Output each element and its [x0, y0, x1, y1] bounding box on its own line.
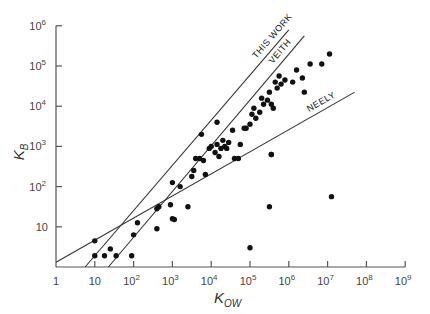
y-tick-label: 106	[29, 18, 46, 32]
data-point	[238, 142, 243, 147]
data-point	[251, 106, 256, 111]
data-point	[170, 180, 175, 185]
data-point	[216, 154, 221, 159]
data-point	[102, 253, 107, 258]
y-tick-label: 103	[29, 138, 46, 152]
data-point	[92, 253, 97, 258]
y-tick-label: 102	[29, 179, 46, 193]
data-point	[113, 253, 118, 258]
data-point	[129, 253, 134, 258]
data-point	[307, 61, 312, 66]
y-tick-label: 10	[36, 221, 48, 233]
data-point	[199, 132, 204, 137]
data-point	[224, 146, 229, 151]
fit-line-veith	[108, 36, 304, 267]
x-tick-label: 1	[53, 275, 59, 287]
x-tick-label: 108	[356, 273, 373, 287]
data-point	[168, 202, 173, 207]
x-tick-label: 106	[278, 273, 295, 287]
data-point	[290, 79, 295, 84]
data-point	[278, 81, 283, 86]
y-tick-label: 105	[29, 58, 46, 72]
fit-line-this-work	[85, 30, 289, 267]
y-axis-title: KB	[10, 143, 30, 160]
data-point	[131, 232, 136, 237]
data-point	[273, 79, 278, 84]
data-point	[189, 174, 194, 179]
data-point	[271, 106, 276, 111]
data-point	[247, 122, 252, 127]
data-point	[253, 116, 258, 121]
x-tick-label: 102	[123, 273, 140, 287]
tick-labels: 1101021031041051061071081091010210310410…	[29, 18, 412, 287]
data-point	[209, 144, 214, 149]
data-point	[327, 51, 332, 56]
data-point	[329, 194, 334, 199]
data-point	[212, 150, 217, 155]
data-point	[230, 128, 235, 133]
data-points	[92, 51, 334, 258]
line-label-neely: NEELY	[305, 89, 337, 113]
data-point	[294, 67, 299, 72]
y-tick-label: 104	[29, 98, 46, 112]
data-point	[302, 89, 307, 94]
axes	[56, 26, 405, 267]
data-point	[249, 112, 254, 117]
data-point	[267, 89, 272, 94]
data-point	[108, 246, 113, 251]
data-point	[154, 226, 159, 231]
data-point	[185, 204, 190, 209]
data-point	[191, 168, 196, 173]
x-tick-label: 107	[317, 273, 334, 287]
data-point	[214, 142, 219, 147]
scatter-chart: 1101021031041051061071081091010210310410…	[0, 0, 430, 314]
data-point	[267, 204, 272, 209]
data-point	[156, 204, 161, 209]
data-point	[203, 172, 208, 177]
data-point	[269, 152, 274, 157]
data-point	[177, 184, 182, 189]
x-tick-label: 109	[395, 273, 412, 287]
data-point	[172, 217, 177, 222]
data-point	[274, 85, 279, 90]
data-point	[135, 220, 140, 225]
data-point	[236, 156, 241, 161]
data-point	[265, 97, 270, 102]
data-point	[201, 158, 206, 163]
x-tick-label: 103	[162, 273, 179, 287]
data-point	[214, 120, 219, 125]
data-point	[259, 95, 264, 100]
data-point	[319, 61, 324, 66]
x-tick-label: 104	[201, 273, 218, 287]
data-point	[92, 238, 97, 243]
data-point	[276, 73, 281, 78]
data-point	[261, 101, 266, 106]
x-tick-label: 105	[240, 273, 257, 287]
x-tick-label: 10	[89, 275, 101, 287]
data-point	[243, 126, 248, 131]
data-point	[247, 245, 252, 250]
data-point	[226, 140, 231, 145]
data-point	[300, 75, 305, 80]
data-point	[220, 138, 225, 143]
x-axis-title: KOW	[214, 289, 243, 309]
data-point	[257, 110, 262, 115]
data-point	[282, 77, 287, 82]
